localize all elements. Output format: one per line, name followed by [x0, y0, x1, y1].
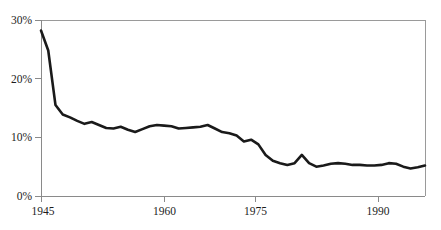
y-tick-label-3: 30% [11, 14, 33, 26]
x-tick-label-2: 1975 [244, 205, 267, 217]
y-tick-marks [35, 20, 41, 196]
y-tick-label-1: 10% [11, 131, 33, 143]
line-chart: 0% 10% 20% 30% 1945 1960 1975 1990 [0, 0, 441, 230]
y-tick-label-2: 20% [11, 73, 33, 85]
x-tick-marks [41, 196, 378, 202]
x-tick-label-3: 1990 [367, 205, 390, 217]
plot-area-background [41, 20, 425, 196]
x-tick-label-0: 1945 [32, 205, 55, 217]
chart-canvas: 0% 10% 20% 30% 1945 1960 1975 1990 [0, 0, 441, 230]
x-tick-label-1: 1960 [153, 205, 176, 217]
y-tick-label-0: 0% [17, 190, 33, 202]
